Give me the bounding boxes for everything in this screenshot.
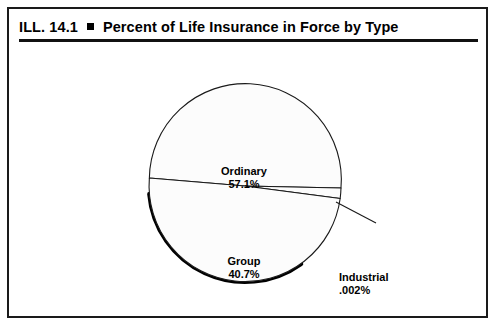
pie-label-group-value: 40.7% xyxy=(186,268,302,281)
pie-label-industrial: Industrial .002% xyxy=(339,271,435,296)
square-bullet-icon xyxy=(87,23,94,30)
figure-title: Percent of Life Insurance in Force by Ty… xyxy=(103,19,399,35)
pie-label-group: Group 40.7% xyxy=(186,255,302,280)
pie-label-group-name: Group xyxy=(186,255,302,268)
pie-label-ordinary-value: 57.1% xyxy=(186,178,302,191)
figure-title-row: ILL. 14.1 Percent of Life Insurance in F… xyxy=(19,17,399,37)
pie-label-industrial-value: .002% xyxy=(339,284,435,297)
industrial-leader-line xyxy=(336,202,376,223)
pie-chart-area: Ordinary 57.1% Group 40.7% Industrial .0… xyxy=(0,45,481,309)
figure-root: ILL. 14.1 Percent of Life Insurance in F… xyxy=(0,0,498,329)
pie-label-ordinary-name: Ordinary xyxy=(186,165,302,178)
pie-label-ordinary: Ordinary 57.1% xyxy=(186,165,302,190)
title-divider-rule xyxy=(19,39,478,42)
pie-label-industrial-name: Industrial xyxy=(339,271,435,284)
figure-number-label: ILL. 14.1 xyxy=(19,19,78,35)
